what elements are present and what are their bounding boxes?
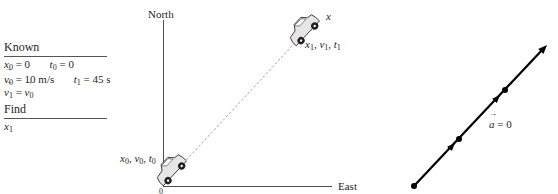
origin-label: 0 (159, 187, 163, 194)
a-symbol: a (489, 118, 495, 130)
v0-subscript: 0 (139, 157, 143, 166)
diagram-graphics (0, 0, 558, 194)
north-label: North (148, 8, 174, 20)
start-state-label: x0, v0, t0 (120, 152, 156, 164)
acceleration-label: a = 0 (489, 118, 512, 130)
x1-subscript: 1 (310, 43, 314, 52)
t0-subscript: 0 (152, 157, 156, 166)
v1-subscript: 1 (324, 43, 328, 52)
x-axis-label: x (326, 10, 331, 22)
motion-diagram-line (414, 49, 543, 186)
car-start-icon (152, 150, 190, 188)
x0-subscript: 0 (125, 157, 129, 166)
east-label: East (338, 180, 357, 192)
end-state-label: x1, v1, t1 (305, 38, 341, 50)
a-value: = 0 (495, 118, 512, 130)
t1-subscript: 1 (337, 43, 341, 52)
